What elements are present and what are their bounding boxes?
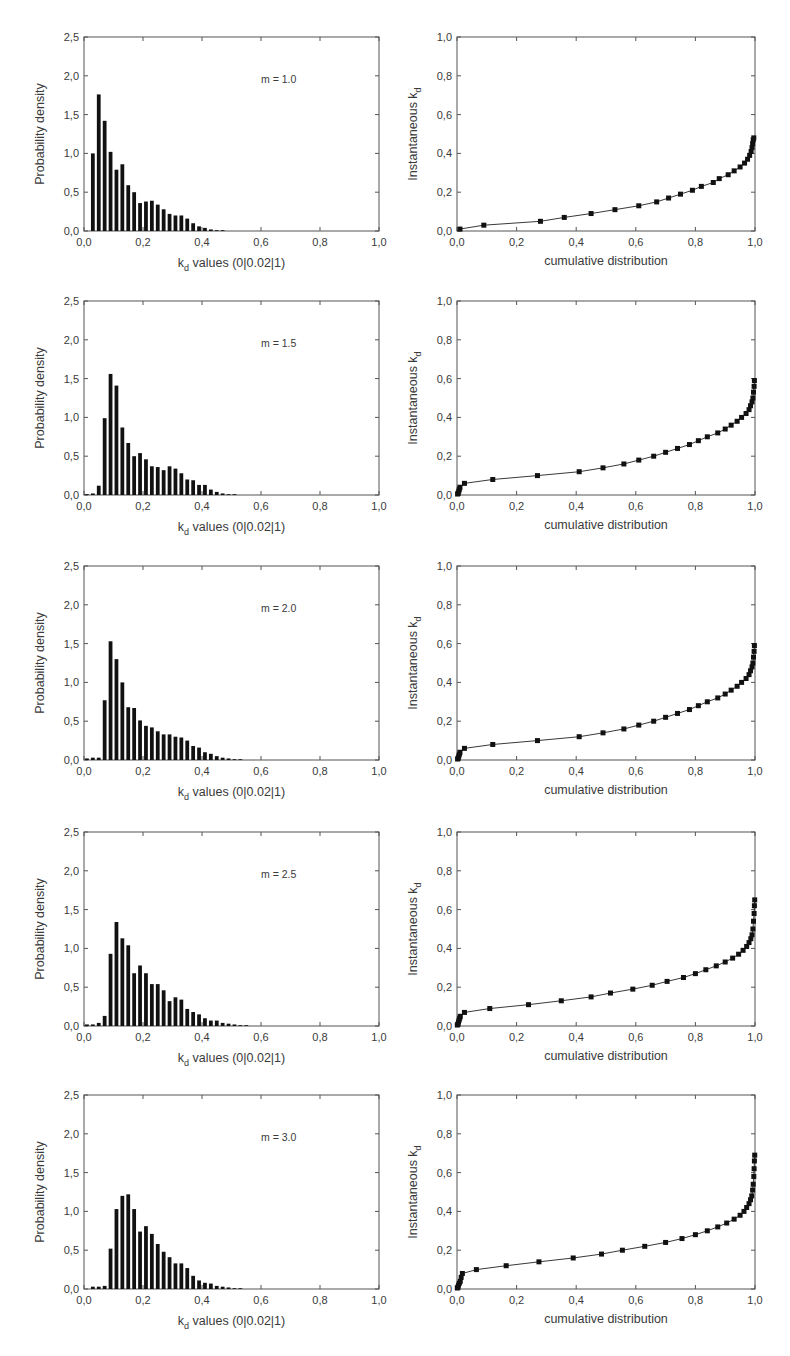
- x-axis-label: cumulative distribution: [544, 1312, 668, 1326]
- histogram-bar: [156, 731, 160, 760]
- histogram-bar: [203, 485, 207, 495]
- square-marker: [723, 692, 728, 697]
- histogram-bar: [91, 758, 95, 760]
- square-marker: [612, 207, 617, 212]
- x-tick-label: 0,2: [509, 236, 524, 248]
- square-marker: [723, 427, 728, 432]
- x-tick-label: 0,4: [194, 1294, 209, 1306]
- histogram-bar: [227, 1287, 231, 1289]
- y-axis-label: Probability density: [33, 83, 47, 185]
- x-tick-label: 1,0: [747, 236, 762, 248]
- square-marker: [739, 415, 744, 420]
- histogram-bar: [144, 202, 148, 231]
- x-tick-label: 0,2: [135, 1294, 150, 1306]
- y-tick-label: 2,5: [64, 295, 79, 307]
- square-marker: [696, 438, 701, 443]
- square-marker: [675, 711, 680, 716]
- square-marker: [621, 461, 626, 466]
- histogram-bar: [221, 493, 225, 495]
- x-axis-label: cumulative distribution: [544, 783, 668, 797]
- y-tick-label: 0,6: [437, 638, 452, 650]
- histogram-bar: [138, 720, 142, 760]
- histogram-bar: [162, 470, 166, 495]
- histogram-bar: [103, 1016, 107, 1026]
- histogram-bar: [138, 965, 142, 1026]
- square-marker: [536, 1259, 541, 1264]
- x-tick-label: 0,8: [688, 1294, 703, 1306]
- x-tick-label: 1,0: [747, 765, 762, 777]
- y-tick-label: 1,5: [64, 109, 79, 121]
- square-marker: [693, 1232, 698, 1237]
- y-axis-label: Instantaneous kd: [406, 616, 423, 709]
- histogram-bar: [191, 1276, 195, 1289]
- histogram-bar: [203, 1283, 207, 1289]
- x-tick-label: 0,8: [688, 1031, 703, 1043]
- y-axis-label: Instantaneous kd: [406, 1145, 423, 1238]
- square-marker: [717, 176, 722, 181]
- square-marker: [735, 684, 740, 689]
- square-marker: [462, 481, 467, 486]
- y-tick-label: 0,5: [64, 981, 79, 993]
- x-tick-label: 0,0: [76, 236, 91, 248]
- y-tick-label: 0,6: [437, 1167, 452, 1179]
- histogram-bar: [115, 922, 119, 1026]
- square-marker: [599, 1252, 604, 1257]
- y-tick-label: 0,2: [437, 715, 452, 727]
- x-tick-label: 0,2: [509, 765, 524, 777]
- square-marker: [678, 192, 683, 197]
- square-marker: [732, 1217, 737, 1222]
- histogram-bar: [120, 164, 124, 231]
- histogram-bar: [191, 746, 195, 760]
- x-tick-label: 0,4: [194, 500, 209, 512]
- histogram-bar: [227, 758, 231, 760]
- square-marker: [751, 655, 756, 660]
- y-tick-label: 0,4: [437, 411, 452, 423]
- square-marker: [750, 1188, 755, 1193]
- x-tick-label: 0,0: [76, 1294, 91, 1306]
- x-tick-label: 0,8: [688, 500, 703, 512]
- histogram-bar: [138, 453, 142, 495]
- histogram-bar: [85, 758, 89, 760]
- y-tick-label: 2,0: [64, 599, 79, 611]
- square-marker: [705, 434, 710, 439]
- histogram-bar: [85, 1024, 89, 1026]
- square-marker: [696, 703, 701, 708]
- x-tick-label: 0,6: [628, 1031, 643, 1043]
- square-marker: [636, 203, 641, 208]
- histogram-bar: [162, 990, 166, 1026]
- histogram-bar: [144, 459, 148, 495]
- square-marker: [724, 1221, 729, 1226]
- y-axis-label: Instantaneous kd: [406, 882, 423, 975]
- square-marker: [462, 1010, 467, 1015]
- y-tick-label: 0,8: [437, 865, 452, 877]
- x-tick-label: 0,2: [509, 1294, 524, 1306]
- square-marker: [601, 730, 606, 735]
- x-tick-label: 1,0: [747, 500, 762, 512]
- square-marker: [457, 227, 462, 232]
- square-marker: [714, 963, 719, 968]
- histogram-bar: [233, 1024, 237, 1026]
- x-tick-label: 0,6: [253, 1294, 268, 1306]
- histogram-bar: [174, 1263, 178, 1289]
- histogram-bar: [91, 153, 95, 231]
- histogram-bar: [209, 490, 213, 495]
- histogram-bar: [120, 427, 124, 495]
- square-marker: [749, 1193, 754, 1198]
- square-marker: [577, 734, 582, 739]
- histogram-bar: [215, 756, 219, 760]
- y-axis-label: Probability density: [33, 347, 47, 449]
- histogram-bar: [156, 205, 160, 231]
- histogram-bar: [179, 1263, 183, 1289]
- square-marker: [577, 469, 582, 474]
- y-tick-label: 2,0: [64, 865, 79, 877]
- x-tick-label: 0,8: [312, 500, 327, 512]
- square-marker: [750, 661, 755, 666]
- histogram-bar: [197, 1280, 201, 1289]
- square-marker: [490, 477, 495, 482]
- histogram-bar: [174, 737, 178, 760]
- histogram-bar: [185, 219, 189, 231]
- histogram-bar: [156, 1244, 160, 1289]
- square-marker: [750, 932, 755, 937]
- histogram-bar: [132, 1209, 136, 1289]
- y-tick-label: 2,5: [64, 31, 79, 43]
